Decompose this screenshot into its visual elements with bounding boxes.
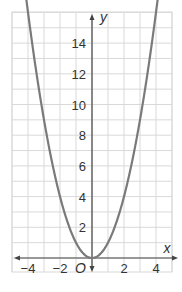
- x-tick-label: 2: [120, 261, 127, 276]
- y-tick-label: 4: [79, 190, 86, 205]
- parabola-chart: −4−2242468101214Oxy: [0, 0, 182, 292]
- y-tick-label: 12: [72, 67, 86, 82]
- y-tick-label: 2: [79, 220, 86, 235]
- x-tick-label: −2: [53, 261, 68, 276]
- origin-label: O: [75, 260, 86, 276]
- y-tick-label: 6: [79, 159, 86, 174]
- x-tick-label: 4: [152, 261, 159, 276]
- x-axis-label: x: [163, 240, 172, 256]
- y-tick-label: 14: [72, 36, 86, 51]
- y-axis-label: y: [99, 9, 108, 25]
- x-axis-right-arrow-icon: [172, 256, 178, 261]
- x-tick-label: −4: [21, 261, 36, 276]
- y-tick-label: 8: [79, 128, 86, 143]
- y-tick-label: 10: [72, 98, 86, 113]
